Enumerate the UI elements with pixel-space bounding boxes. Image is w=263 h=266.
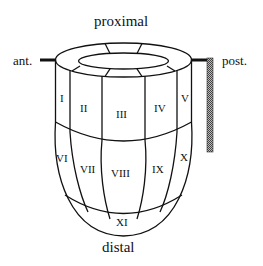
segment-VI: VI <box>56 153 68 164</box>
inner-ring <box>79 53 169 69</box>
segment-VIII: VIII <box>111 168 130 179</box>
segment-X: X <box>180 152 188 163</box>
segment-IX: IX <box>152 164 164 175</box>
segment-XI: XI <box>116 217 128 228</box>
anterior-label: ant. <box>13 54 32 67</box>
posterior-hatched-bar <box>207 58 213 152</box>
segment-II: II <box>80 103 87 114</box>
proximal-label: proximal <box>94 14 148 29</box>
segment-I: I <box>60 93 64 104</box>
posterior-label: post. <box>222 54 247 67</box>
distal-label: distal <box>102 240 135 255</box>
outer-ring <box>56 43 192 77</box>
segment-diagram <box>0 0 263 266</box>
segment-V: V <box>181 93 189 104</box>
segment-IV: IV <box>154 103 166 114</box>
segment-VII: VII <box>80 164 95 175</box>
segment-III: III <box>116 109 127 120</box>
